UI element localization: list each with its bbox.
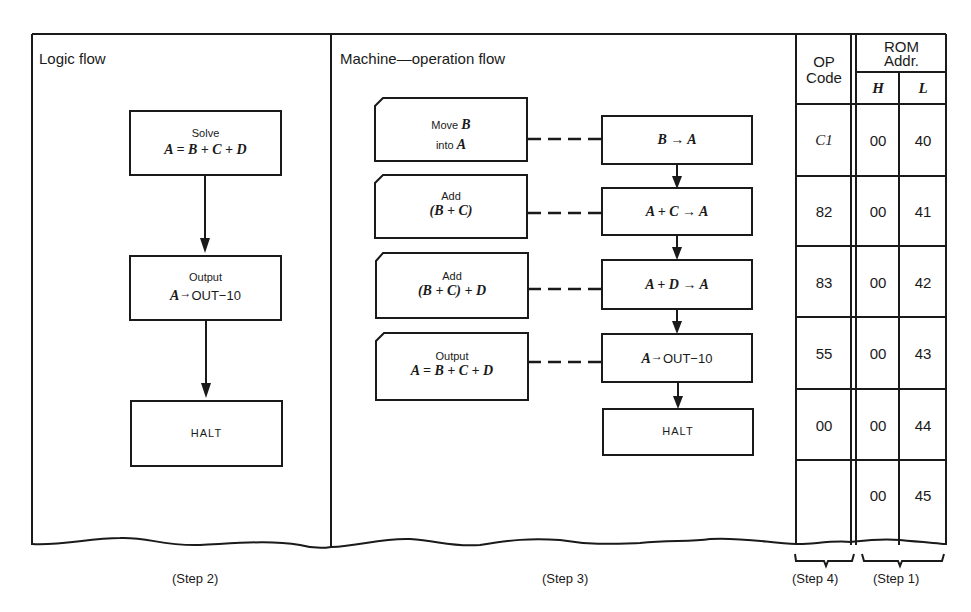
logic-output-box: Output A→OUT−10 [129, 255, 282, 321]
opcode-cell: 82 [797, 177, 851, 246]
machine-op-4: A→OUT−10 [601, 333, 753, 383]
machine-op-3: A + D → A [601, 259, 753, 310]
rom-l-cell: 45 [900, 461, 946, 529]
rom-h-cell: 00 [857, 105, 899, 176]
logic-halt-box: HALT [130, 400, 283, 467]
opcode-cell: 55 [797, 318, 851, 389]
opcode-cell: 83 [797, 247, 851, 317]
logic-output-label: Output [189, 271, 222, 285]
rom-h-cell: 00 [857, 247, 899, 317]
rom-header: ROM Addr. [857, 36, 946, 72]
machine-flow-title: Machine—operation flow [340, 50, 505, 67]
step-1-label: (Step 1) [873, 571, 919, 586]
step-4-label: (Step 4) [792, 571, 838, 586]
logic-solve-label: Solve [192, 127, 220, 141]
rom-l-cell: 41 [900, 177, 946, 246]
rom-l-cell: 43 [900, 318, 946, 389]
machine-desc-4: Output A = B + C + D [376, 350, 528, 380]
rom-h-cell: 00 [857, 390, 899, 460]
step-2-label: (Step 2) [172, 571, 218, 586]
opcode-header: OP Code [797, 36, 851, 104]
step-3-label: (Step 3) [542, 571, 588, 586]
machine-desc-3: Add (B + C) + D [376, 270, 528, 300]
opcode-cell: C1 [797, 105, 851, 176]
rom-h-cell: 00 [857, 177, 899, 246]
rom-h-cell: 00 [857, 461, 899, 529]
logic-solve-box: Solve A = B + C + D [129, 110, 282, 176]
rom-col-h-header: H [857, 73, 899, 104]
logic-halt-label: HALT [191, 427, 222, 441]
opcode-cell [797, 461, 851, 529]
logic-flow-title: Logic flow [39, 50, 106, 67]
logic-output-expr: A→OUT−10 [170, 285, 241, 305]
machine-desc-1: Move B into A [375, 114, 527, 154]
rom-col-l-header: L [900, 73, 946, 104]
rom-l-cell: 42 [900, 247, 946, 317]
machine-op-2: A + C → A [601, 187, 753, 236]
machine-op-1: B → A [601, 115, 753, 165]
logic-solve-expr: A = B + C + D [164, 141, 246, 159]
rom-h-cell: 00 [857, 318, 899, 389]
rom-l-cell: 40 [900, 105, 946, 176]
machine-desc-2: Add (B + C) [375, 190, 527, 220]
machine-halt: HALT [602, 408, 754, 456]
opcode-cell: 00 [797, 390, 851, 460]
rom-l-cell: 44 [900, 390, 946, 460]
